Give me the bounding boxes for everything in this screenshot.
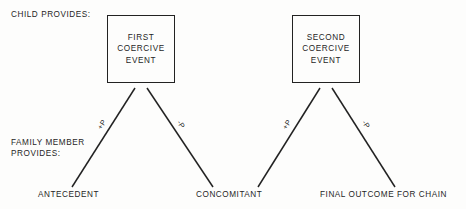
outcome-final-outcome-for-chain: FINAL OUTCOME FOR CHAIN	[320, 190, 447, 199]
branch-line-second-right	[332, 88, 395, 187]
outcome-concomitant: CONCOMITANT	[196, 190, 262, 199]
diagram-canvas: CHILD PROVIDES: FAMILY MEMBER PROVIDES: …	[0, 0, 466, 209]
branch-lines-layer	[0, 0, 466, 209]
branch-line-second-left	[258, 88, 320, 187]
branch-line-first-left	[72, 88, 135, 187]
outcome-antecedent: ANTECEDENT	[38, 190, 99, 199]
branch-line-first-right	[147, 88, 213, 187]
